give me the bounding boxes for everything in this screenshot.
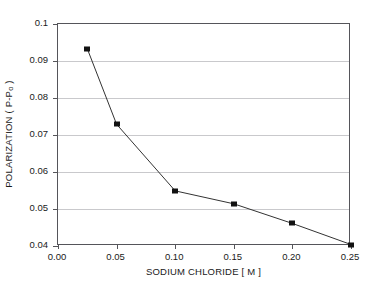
data-point-marker <box>84 46 90 51</box>
y-axis-tick-label: 0.05 <box>30 203 49 213</box>
series-line <box>58 24 349 244</box>
y-axis-tick-label: 0.09 <box>30 55 49 65</box>
x-axis-tick-labels: 0.000.050.100.150.200.25 <box>57 252 350 266</box>
data-point-marker <box>231 201 237 206</box>
y-axis-tick-label: 0.07 <box>30 129 49 139</box>
y-axis-tick-label: 0.1 <box>35 18 48 28</box>
x-axis-tick-label: 0.10 <box>165 252 184 262</box>
x-axis-tick-label: 0.20 <box>282 252 301 262</box>
x-axis-tick-label: 0.00 <box>48 252 67 262</box>
x-axis-tick-label: 0.15 <box>224 252 243 262</box>
y-axis-tick-label: 0.08 <box>30 92 49 102</box>
x-axis-tick <box>175 244 176 249</box>
x-axis-tick <box>58 244 59 249</box>
x-axis-tick <box>292 244 293 249</box>
x-axis-tick <box>234 244 235 249</box>
y-axis-tick-label: 0.06 <box>30 166 49 176</box>
x-axis-tick <box>117 244 118 249</box>
y-axis-tick-labels: 0.040.050.060.070.080.090.1 <box>0 23 48 245</box>
data-point-marker <box>114 122 120 127</box>
data-point-marker <box>289 221 295 226</box>
x-axis-tick-label: 0.05 <box>106 252 125 262</box>
chart-figure: POLARIZATION ( P-Po ) 0.040.050.060.070.… <box>0 0 374 287</box>
data-point-marker <box>348 242 354 247</box>
data-point-marker <box>172 188 178 193</box>
x-axis-tick-label: 0.25 <box>341 252 360 262</box>
x-axis-title: SODIUM CHLORIDE [ M ] <box>57 266 350 277</box>
plot-area <box>57 23 350 245</box>
y-axis-tick-label: 0.04 <box>30 240 49 250</box>
